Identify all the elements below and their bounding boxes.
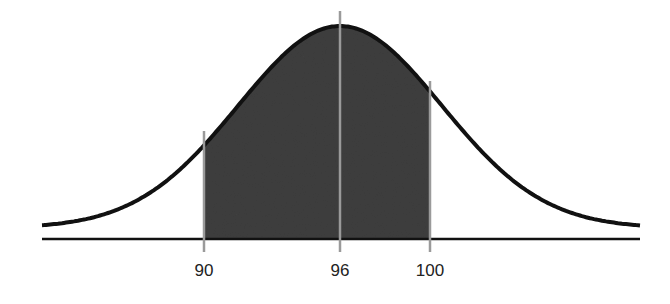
normal-distribution-diagram: 90 96 100: [0, 0, 670, 304]
tick-label-90: 90: [195, 261, 214, 280]
shaded-region: [204, 26, 430, 239]
tick-label-96: 96: [331, 261, 350, 280]
tick-label-100: 100: [416, 261, 444, 280]
